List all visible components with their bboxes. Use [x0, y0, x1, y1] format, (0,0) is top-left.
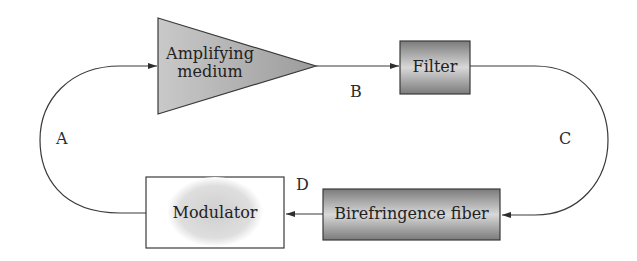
amplifier-label: Amplifying medium: [160, 45, 260, 82]
modulator-label: Modulator: [146, 204, 284, 222]
filter-label: Filter: [400, 58, 470, 76]
point-c-label: C: [559, 131, 571, 147]
birefringence-label: Birefringence fiber: [323, 205, 500, 223]
point-b-label: B: [350, 84, 362, 100]
point-d-label: D: [296, 177, 309, 193]
amplifier-label-line1: Amplifying: [160, 45, 260, 63]
ring-laser-diagram: [0, 0, 637, 261]
point-a-label: A: [56, 131, 68, 147]
amplifier-label-line2: medium: [160, 63, 260, 81]
